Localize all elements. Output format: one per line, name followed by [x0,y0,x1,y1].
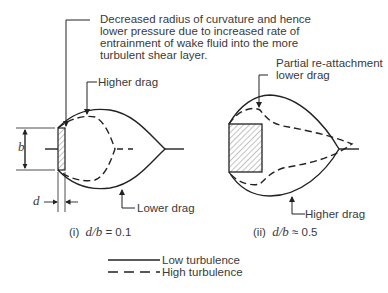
left-caption: (i) d/b = 0.1 [69,226,131,239]
caption-ratio: d/b [86,224,103,239]
legend-high-turbulence: High turbulence [162,266,243,279]
legend-low-turbulence: Low turbulence [162,254,240,267]
annotation-line-2: lower pressure due to increased rate of [100,25,299,38]
caption-value: ≈ 0.5 [292,226,318,238]
legend-lines [108,260,160,272]
dim-b-label: b [18,141,25,154]
partial-label-2: lower drag [276,69,330,82]
thick-plate [229,124,262,172]
thin-plate [58,128,65,170]
caption-prefix: (i) [69,226,79,238]
caption-value: = 0.1 [105,226,131,238]
left-higher-drag-label: Higher drag [98,76,158,89]
right-higher-drag-label: Higher drag [305,208,365,221]
right-diagram [229,75,359,214]
partial-label-1: Partial re-attachment [276,57,383,70]
caption-ratio: d/b [272,224,289,239]
annotation-line-3: entrainment of wake fluid into the more [100,37,298,50]
lower-drag-leader [122,190,135,208]
right-higher-drag-leader [292,197,305,214]
partial-reattachment-leader [259,75,268,107]
annotation-line-1: Decreased radius of curvature and hence [100,13,311,26]
left-lower-drag-label: Lower drag [137,202,195,215]
annotation-leader [66,20,90,126]
annotation-line-4: turbulent shear layer. [100,49,207,62]
dim-d-label: d [33,195,40,208]
right-caption: (ii) d/b ≈ 0.5 [253,226,318,239]
caption-prefix: (ii) [253,226,266,238]
